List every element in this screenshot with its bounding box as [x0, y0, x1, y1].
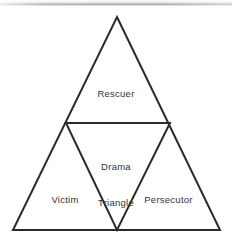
region-label-victim: Victim: [13, 194, 117, 206]
region-label-drama-triangle-line1: Drama: [0, 161, 232, 173]
drama-triangle-diagram: Rescuer Drama Triangle Victim Persecutor: [0, 0, 232, 244]
region-label-drama-triangle: Drama Triangle: [0, 137, 232, 233]
region-label-rescuer: Rescuer: [0, 88, 232, 100]
region-label-persecutor: Persecutor: [117, 194, 220, 206]
